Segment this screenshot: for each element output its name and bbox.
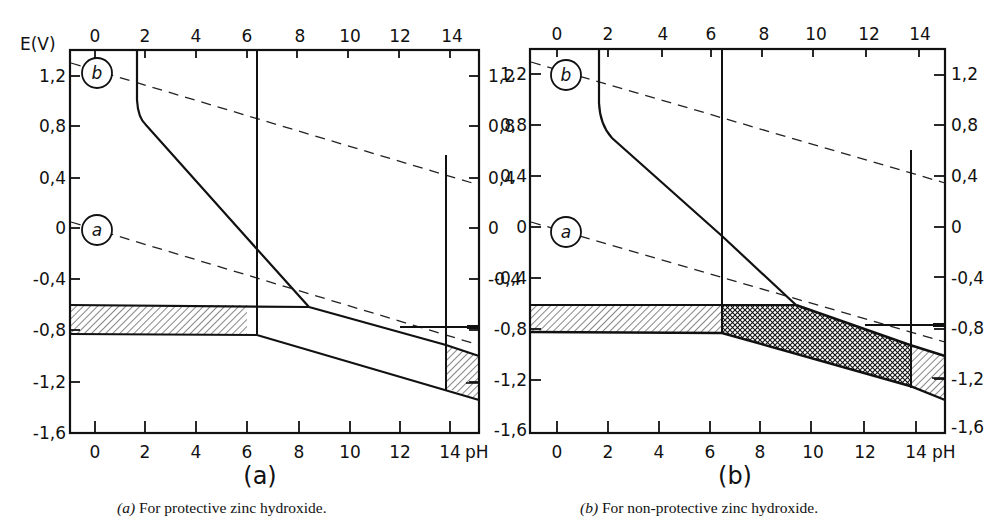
bottom-ticks-b — [557, 421, 916, 433]
right-tick-labels-b: 1,2 0,8 0,4 0 -0,4 -0,8 -1,2 -1,6 — [951, 64, 984, 437]
svg-text:-1,6: -1,6 — [33, 423, 66, 443]
svg-text:10: 10 — [339, 26, 361, 46]
top-ticks-a — [95, 50, 450, 58]
top-ticks-b — [557, 49, 919, 57]
x-axis-unit-b: pH — [932, 442, 956, 462]
svg-text:12: 12 — [854, 442, 876, 462]
svg-text:4: 4 — [654, 442, 665, 462]
svg-text:0: 0 — [55, 218, 66, 238]
passivation-boundary-b — [599, 49, 796, 305]
svg-text:14: 14 — [905, 442, 927, 462]
svg-text:0: 0 — [516, 217, 527, 237]
svg-text:-0,8: -0,8 — [951, 318, 984, 338]
svg-text:12: 12 — [858, 24, 880, 44]
svg-text:12: 12 — [389, 442, 411, 462]
svg-text:-0,4: -0,4 — [951, 268, 984, 288]
svg-text:0,4: 0,4 — [488, 168, 515, 188]
hydroxide-upper-a — [309, 307, 479, 356]
svg-text:10: 10 — [339, 442, 361, 462]
svg-text:14: 14 — [439, 442, 461, 462]
svg-text:6: 6 — [242, 26, 253, 46]
right-ticks-b — [934, 75, 945, 379]
chart-panel-a: b a E(V) 0 2 4 6 8 10 12 14 0 2 4 6 8 10… — [20, 26, 489, 517]
svg-text:8: 8 — [295, 26, 306, 46]
svg-text:0,8: 0,8 — [39, 116, 66, 136]
marker-a — [467, 325, 478, 329]
bottom-tick-labels-a: 0 2 4 6 8 10 12 14 — [90, 442, 461, 462]
x-axis-unit-a: pH — [465, 442, 489, 462]
svg-text:-1,2: -1,2 — [33, 372, 66, 392]
svg-text:0: 0 — [90, 442, 101, 462]
svg-text:0: 0 — [552, 442, 563, 462]
svg-text:6: 6 — [706, 24, 717, 44]
svg-text:-0,4: -0,4 — [33, 269, 66, 289]
circle-label-a-a: a — [82, 215, 112, 245]
svg-text:6: 6 — [705, 442, 716, 462]
y-axis-title-a: E(V) — [20, 34, 56, 54]
dashed-line-b-a — [71, 63, 479, 185]
svg-text:1,2: 1,2 — [39, 66, 66, 86]
svg-text:-0,8: -0,8 — [494, 319, 527, 339]
circle-label-b-b: b — [551, 60, 581, 90]
svg-text:2: 2 — [603, 24, 614, 44]
svg-text:-1,6: -1,6 — [951, 417, 984, 437]
bottom-tick-labels-b: 0 2 4 6 8 10 12 14 — [552, 442, 927, 462]
hatched-band-b — [531, 305, 722, 332]
bottom-ticks-a — [95, 421, 450, 433]
plot-frame-a — [70, 50, 479, 433]
svg-text:4: 4 — [191, 442, 202, 462]
crosshatch-region-b — [722, 305, 910, 386]
lower-boundary-a — [70, 334, 479, 400]
right-ticks-a — [469, 76, 479, 382]
figure: b a E(V) 0 2 4 6 8 10 12 14 0 2 4 6 8 10… — [0, 0, 1001, 529]
svg-text:0,4: 0,4 — [39, 168, 66, 188]
svg-text:4: 4 — [191, 26, 202, 46]
svg-text:12: 12 — [389, 26, 411, 46]
svg-text:0: 0 — [90, 26, 101, 46]
svg-text:-1,6: -1,6 — [494, 420, 527, 440]
svg-text:-1,2: -1,2 — [494, 370, 527, 390]
svg-text:0: 0 — [488, 218, 499, 238]
svg-text:8: 8 — [759, 24, 770, 44]
svg-text:6: 6 — [242, 442, 253, 462]
svg-text:b: b — [92, 63, 103, 83]
svg-text:a: a — [561, 222, 571, 242]
circle-label-b-a: b — [82, 58, 112, 88]
svg-text:1,2: 1,2 — [488, 66, 515, 86]
svg-text:0,8: 0,8 — [488, 116, 515, 136]
panel-label-a: (a) — [243, 462, 276, 490]
svg-text:-1,2: -1,2 — [951, 369, 984, 389]
svg-text:1,2: 1,2 — [951, 64, 978, 84]
panel-label-b: (b) — [718, 462, 752, 490]
dashed-line-b-b — [531, 62, 945, 183]
svg-text:8: 8 — [294, 442, 305, 462]
svg-text:14: 14 — [909, 24, 931, 44]
marker-b — [933, 323, 944, 327]
svg-text:0,8: 0,8 — [951, 115, 978, 135]
svg-text:2: 2 — [603, 442, 614, 462]
svg-text:10: 10 — [802, 442, 824, 462]
svg-text:0,4: 0,4 — [951, 166, 978, 186]
svg-text:4: 4 — [658, 24, 669, 44]
caption-b: (b) For non-protective zinc hydroxide. — [580, 499, 818, 517]
svg-text:10: 10 — [805, 24, 827, 44]
svg-text:2: 2 — [140, 26, 151, 46]
svg-text:-0,8: -0,8 — [33, 320, 66, 340]
svg-text:8: 8 — [755, 442, 766, 462]
svg-text:0: 0 — [552, 24, 563, 44]
circle-label-a-b: a — [551, 217, 581, 247]
svg-text:a: a — [92, 220, 102, 240]
caption-a: (a) For protective zinc hydroxide. — [117, 499, 327, 517]
svg-text:b: b — [561, 65, 572, 85]
chart-panel-b: b a 0 2 4 6 8 10 12 14 0 2 4 6 8 10 12 1… — [488, 24, 984, 517]
top-tick-labels-b: 0 2 4 6 8 10 12 14 — [552, 24, 931, 44]
left-tick-labels-a: 1,2 0,8 0,4 0 -0,4 -0,8 -1,2 -1,6 — [33, 66, 66, 443]
svg-text:2: 2 — [140, 442, 151, 462]
left-ticks-b — [530, 74, 541, 380]
hatched-band-a — [71, 305, 247, 334]
left-ticks-a — [70, 76, 80, 382]
svg-text:14: 14 — [441, 26, 463, 46]
top-tick-labels-a: 0 2 4 6 8 10 12 14 — [90, 26, 463, 46]
svg-text:-0,4: -0,4 — [488, 269, 521, 289]
svg-text:0: 0 — [951, 217, 962, 237]
